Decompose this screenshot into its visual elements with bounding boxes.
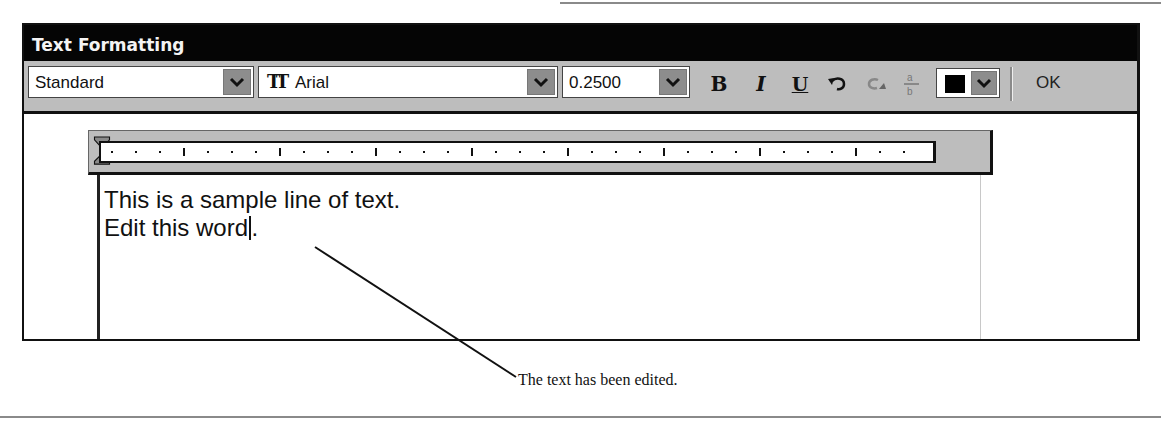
redo-button[interactable] — [864, 71, 890, 97]
ruler-panel — [88, 130, 993, 175]
color-dropdown-button[interactable] — [971, 71, 997, 95]
bold-button[interactable]: B — [706, 71, 732, 97]
page-top-rule — [560, 2, 1161, 4]
text-height-dropdown-button[interactable] — [659, 69, 687, 95]
toolbar-separator — [1010, 67, 1013, 101]
chevron-down-icon — [976, 77, 992, 89]
svg-text:b: b — [907, 86, 913, 97]
ruler-ticks — [101, 143, 933, 161]
text-height-value: 0.2500 — [569, 73, 621, 93]
svg-text:a: a — [907, 72, 913, 83]
page-bottom-rule — [0, 416, 1161, 418]
font-select[interactable]: TT Arial — [258, 66, 558, 98]
undo-icon — [826, 75, 848, 93]
text-formatting-window: Text Formatting Standard TT Arial 0.2500… — [22, 23, 1140, 341]
title-bar[interactable]: Text Formatting — [24, 25, 1137, 62]
redo-icon — [866, 75, 888, 93]
text-height-select[interactable]: 0.2500 — [562, 66, 690, 98]
chevron-down-icon — [229, 76, 245, 88]
underline-button[interactable]: U — [787, 71, 813, 97]
text-formatting-toolbar: Standard TT Arial 0.2500 B I U — [24, 61, 1137, 114]
italic-button[interactable]: I — [748, 71, 774, 97]
style-select[interactable]: Standard — [28, 66, 254, 98]
text-line-2-tail: . — [252, 214, 259, 241]
text-caret — [249, 216, 251, 240]
undo-button[interactable] — [824, 71, 850, 97]
font-dropdown-button[interactable] — [527, 69, 555, 95]
chevron-down-icon — [533, 76, 549, 88]
stack-fraction-icon: a b — [901, 71, 923, 97]
text-area-right-guide — [980, 175, 981, 339]
truetype-font-icon: TT — [267, 71, 285, 92]
style-dropdown-button[interactable] — [223, 69, 251, 95]
stack-button[interactable]: a b — [900, 71, 924, 97]
text-line-2-content: Edit this word — [104, 214, 248, 241]
window-title: Text Formatting — [32, 35, 184, 55]
text-area-left-border — [97, 175, 100, 339]
color-swatch — [945, 75, 965, 93]
text-color-select[interactable] — [936, 68, 1000, 98]
font-value: Arial — [295, 73, 329, 93]
ruler[interactable] — [99, 141, 936, 163]
callout-label: The text has been edited. — [518, 371, 678, 389]
chevron-down-icon — [665, 76, 681, 88]
text-line-2[interactable]: Edit this word. — [104, 214, 258, 242]
ok-button[interactable]: OK — [1036, 73, 1061, 93]
text-line-1[interactable]: This is a sample line of text. — [104, 186, 400, 214]
style-value: Standard — [35, 73, 104, 93]
